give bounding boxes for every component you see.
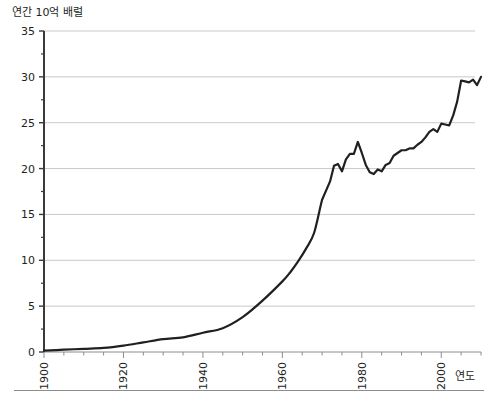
- grid-lines: [44, 31, 475, 306]
- bottom-divider: [14, 390, 484, 391]
- svg-text:30: 30: [21, 71, 35, 84]
- svg-text:1940: 1940: [197, 362, 210, 390]
- svg-text:35: 35: [21, 25, 35, 38]
- x-axis-minor-ticks: [64, 352, 481, 356]
- x-axis-label: 연도: [455, 370, 475, 384]
- svg-text:20: 20: [21, 163, 35, 176]
- x-axis-tick-labels: 190019201940196019802000: [38, 362, 448, 390]
- y-axis-label: 연간 10억 배럴: [12, 6, 83, 20]
- svg-text:1920: 1920: [117, 362, 130, 390]
- svg-text:5: 5: [28, 300, 35, 313]
- data-series-line: [44, 77, 481, 351]
- svg-text:15: 15: [21, 208, 35, 221]
- chart-figure: 연간 10억 배럴 05101520253035 190019201940196…: [0, 0, 498, 404]
- svg-text:10: 10: [21, 254, 35, 267]
- svg-text:2000: 2000: [435, 362, 448, 390]
- svg-text:1980: 1980: [356, 362, 369, 390]
- svg-text:25: 25: [21, 117, 35, 130]
- line-chart-plot: 05101520253035 190019201940196019802000: [0, 0, 498, 404]
- y-axis-tick-labels: 05101520253035: [21, 25, 35, 359]
- svg-text:1960: 1960: [276, 362, 289, 390]
- svg-text:0: 0: [28, 346, 35, 359]
- svg-text:1900: 1900: [38, 362, 51, 390]
